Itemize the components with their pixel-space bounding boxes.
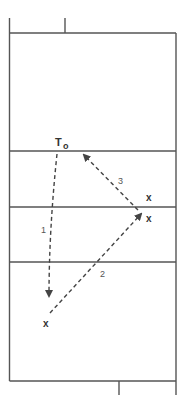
path-3-arrow (84, 155, 138, 210)
setter-target-marker: T (55, 136, 62, 148)
path-2-arrow (50, 214, 141, 313)
path-1-label: 1 (41, 225, 46, 235)
path-3-label: 3 (118, 176, 123, 186)
setter-target-subscript: o (63, 141, 69, 151)
volleyball-court-diagram: 1 2 3 T o x x x (0, 0, 185, 415)
player-lower-left-marker: x (43, 318, 49, 329)
path-1-arrow (49, 154, 57, 296)
court-lines (10, 18, 177, 395)
player-right-marker: x (146, 213, 152, 224)
player-upper-right-marker: x (146, 192, 152, 203)
path-2-label: 2 (100, 269, 105, 279)
